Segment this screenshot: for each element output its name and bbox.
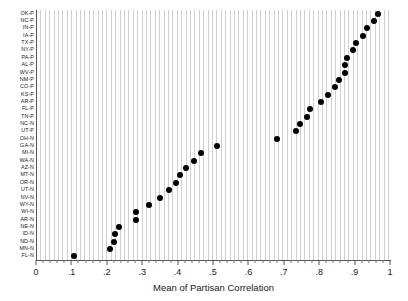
y-axis-tick-label: IN-P	[0, 26, 34, 31]
data-point	[133, 217, 139, 223]
x-axis-minor-tick	[276, 260, 277, 263]
data-point	[336, 77, 342, 83]
data-point	[293, 128, 299, 134]
data-point	[274, 136, 280, 142]
x-axis-minor-tick	[262, 260, 263, 263]
x-axis-tick-label: 0	[33, 267, 38, 277]
y-axis-tick-label: ND-N	[0, 239, 34, 244]
y-axis-tick-label: PA-P	[0, 55, 34, 60]
data-point	[304, 114, 310, 120]
x-axis-minor-tick	[326, 260, 327, 263]
x-axis-major-tick	[36, 260, 37, 265]
x-axis-minor-tick	[290, 260, 291, 263]
x-axis-tick-label: .1	[68, 267, 76, 277]
x-axis-minor-tick	[128, 260, 129, 263]
y-axis-tick-label: FL-N	[0, 254, 34, 259]
x-axis-minor-tick	[361, 260, 362, 263]
x-axis-minor-tick	[305, 260, 306, 263]
x-axis-major-tick	[248, 260, 249, 265]
x-axis-minor-tick	[368, 260, 369, 263]
data-point	[342, 70, 348, 76]
x-axis-title: Mean of Partisan Correlation	[36, 282, 391, 293]
x-axis-minor-tick	[113, 260, 114, 263]
grid-lines	[36, 10, 390, 260]
y-axis-tick-label: TX-P	[0, 40, 34, 45]
x-axis-line	[36, 260, 391, 261]
data-point	[116, 224, 122, 230]
x-axis-tick-label: .5	[209, 267, 217, 277]
y-axis-tick-label: CO-P	[0, 85, 34, 90]
x-axis-minor-tick	[64, 260, 65, 263]
data-point	[173, 180, 179, 186]
data-point	[166, 187, 172, 193]
data-point	[325, 92, 331, 98]
x-axis-tick-label: .4	[174, 267, 182, 277]
y-axis-tick-label: NV-N	[0, 195, 34, 200]
x-axis-minor-tick	[57, 260, 58, 263]
data-point	[198, 150, 204, 156]
data-point	[111, 239, 117, 245]
x-axis-minor-tick	[85, 260, 86, 263]
x-axis-major-tick	[142, 260, 143, 265]
data-point	[318, 99, 324, 105]
data-point	[71, 253, 77, 259]
y-axis-tick-label: AR-N	[0, 217, 34, 222]
plot-area	[36, 10, 390, 260]
data-point	[344, 55, 350, 61]
y-axis-tick-label: ID-N	[0, 232, 34, 237]
x-axis-tick-label: .7	[280, 267, 288, 277]
y-axis-tick-label: WY-N	[0, 202, 34, 207]
x-axis-minor-tick	[149, 260, 150, 263]
y-axis-tick-label: OK-P	[0, 11, 34, 16]
x-axis-major-tick	[106, 260, 107, 265]
data-point	[107, 246, 113, 252]
y-axis-tick-label: UT-P	[0, 129, 34, 134]
y-axis-tick-label: WA-N	[0, 158, 34, 163]
data-point	[375, 11, 381, 17]
x-axis-minor-tick	[92, 260, 93, 263]
x-axis-minor-tick	[297, 260, 298, 263]
y-axis-tick-label: MI-N	[0, 151, 34, 156]
x-axis-minor-tick	[163, 260, 164, 263]
data-point	[353, 40, 359, 46]
x-axis-minor-tick	[135, 260, 136, 263]
data-point	[157, 195, 163, 201]
partisan-correlation-dot-chart: OK-PNC-PIN-PIA-PTX-PNY-PPA-PAL-PWV-PNM-P…	[0, 0, 408, 301]
y-axis-tick-label: NE-N	[0, 224, 34, 229]
y-axis-tick-label: NM-P	[0, 77, 34, 82]
x-axis-minor-tick	[382, 260, 383, 263]
y-axis-tick-label: MT-N	[0, 173, 34, 178]
data-point	[191, 158, 197, 164]
x-axis-major-tick	[283, 260, 284, 265]
data-point	[342, 62, 348, 68]
x-axis-minor-tick	[170, 260, 171, 263]
y-axis-line	[36, 10, 37, 260]
x-axis-minor-tick	[50, 260, 51, 263]
x-axis-major-tick	[71, 260, 72, 265]
y-axis-tick-label: IA-P	[0, 33, 34, 38]
data-point	[307, 106, 313, 112]
x-axis-tick-label: .6	[245, 267, 253, 277]
x-axis-minor-tick	[220, 260, 221, 263]
x-axis-minor-tick	[156, 260, 157, 263]
y-axis-tick-label: GA-N	[0, 143, 34, 148]
x-axis-major-tick	[319, 260, 320, 265]
y-axis-tick-label: KS-P	[0, 92, 34, 97]
data-point	[332, 84, 338, 90]
x-axis-minor-tick	[234, 260, 235, 263]
y-axis-tick-label: NY-P	[0, 48, 34, 53]
y-axis-tick-label: OR-N	[0, 180, 34, 185]
x-axis-tick-label: .3	[138, 267, 146, 277]
x-axis-tick-label: .2	[103, 267, 111, 277]
x-axis-tick-label: .9	[351, 267, 359, 277]
x-axis-minor-tick	[333, 260, 334, 263]
data-point	[214, 143, 220, 149]
x-axis-minor-tick	[99, 260, 100, 263]
x-axis-minor-tick	[269, 260, 270, 263]
x-axis-minor-tick	[227, 260, 228, 263]
y-axis-tick-label: MN-N	[0, 246, 34, 251]
data-point	[112, 231, 118, 237]
y-axis-category-labels: OK-PNC-PIN-PIA-PTX-PNY-PPA-PAL-PWV-PNM-P…	[0, 10, 34, 260]
y-axis-tick-label: NC-N	[0, 121, 34, 126]
x-axis-major-tick	[177, 260, 178, 265]
